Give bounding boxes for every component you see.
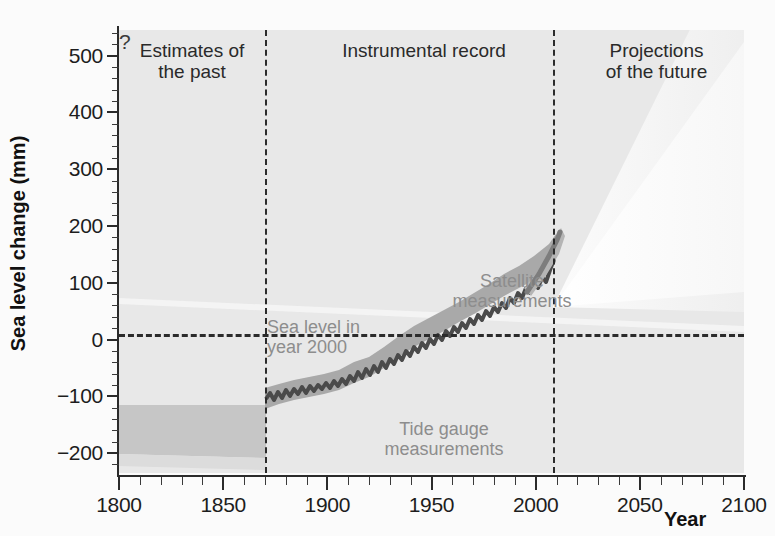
heading-past-line2: the past [127, 61, 257, 82]
y-minor-tick [112, 101, 119, 102]
x-minor-tick [515, 477, 516, 485]
x-major-tick [639, 477, 641, 490]
x-minor-tick [182, 477, 183, 485]
x-major-tick [326, 477, 328, 490]
y-minor-tick [112, 249, 119, 250]
y-minor-tick [112, 90, 119, 91]
x-minor-tick [557, 477, 558, 485]
tide-gauge-label-line2: measurements [349, 440, 539, 460]
x-major-tick [118, 477, 120, 490]
y-major-tick [107, 111, 119, 113]
x-minor-tick [702, 477, 703, 485]
heading-past-line1: Estimates of [127, 40, 257, 61]
y-tick-label: 300 [69, 157, 103, 181]
y-minor-tick [112, 203, 119, 204]
x-tick-label: 2000 [513, 493, 559, 517]
x-minor-tick [161, 477, 162, 485]
x-minor-tick [723, 477, 724, 485]
annotation-sea-level-year-2000: Sea level in year 2000 [267, 318, 360, 358]
x-minor-tick [369, 477, 370, 485]
y-minor-tick [112, 260, 119, 261]
y-tick-label: 100 [69, 271, 103, 295]
x-minor-tick [598, 477, 599, 485]
chart-graphics-layer [119, 30, 744, 473]
y-minor-tick [112, 237, 119, 238]
y-minor-tick [112, 78, 119, 79]
x-tick-label: 1850 [200, 493, 246, 517]
y-minor-tick [112, 158, 119, 159]
y-tick-label: 0 [92, 328, 103, 352]
annotation-tide-gauge-measurements: Tide gauge measurements [349, 420, 539, 460]
y-minor-tick [112, 181, 119, 182]
x-tick-label: 1900 [305, 493, 351, 517]
y-minor-tick [112, 362, 119, 363]
tide-gauge-label-line1: Tide gauge [349, 420, 539, 440]
y-major-tick [107, 395, 119, 397]
x-tick-label: 2050 [617, 493, 663, 517]
x-minor-tick [473, 477, 474, 485]
y-major-tick [107, 168, 119, 170]
x-minor-tick [452, 477, 453, 485]
x-minor-tick [202, 477, 203, 485]
x-minor-tick [619, 477, 620, 485]
past-estimate-band [119, 405, 266, 458]
heading-projections-line1: Projections [574, 40, 739, 61]
divider-1870-dashed-line [265, 30, 267, 473]
x-minor-tick [348, 477, 349, 485]
sea-level-label-line2: year 2000 [267, 338, 360, 358]
satellite-label-line1: Satellite [437, 272, 587, 292]
y-minor-tick [112, 374, 119, 375]
section-heading-instrumental-record: Instrumental record [279, 40, 569, 61]
annotation-satellite-measurements: Satellite measurements [437, 272, 587, 312]
x-major-tick [743, 477, 745, 490]
sea-level-change-chart: Sea level change (mm) [0, 0, 775, 536]
y-minor-tick [112, 442, 119, 443]
y-minor-tick [112, 305, 119, 306]
x-minor-tick [307, 477, 308, 485]
y-minor-tick [112, 67, 119, 68]
x-minor-tick [577, 477, 578, 485]
x-minor-tick [411, 477, 412, 485]
y-tick-label: 200 [69, 214, 103, 238]
y-major-tick [107, 55, 119, 57]
x-major-tick [535, 477, 537, 490]
y-minor-tick [112, 294, 119, 295]
x-axis-ticks: 1800185019001950200020502100 [0, 477, 775, 536]
x-minor-tick [244, 477, 245, 485]
y-tick-label: −100 [57, 384, 103, 408]
y-minor-tick [112, 215, 119, 216]
heading-instrumental-line1: Instrumental record [279, 40, 569, 61]
satellite-label-line2: measurements [437, 292, 587, 312]
y-major-tick [107, 339, 119, 341]
y-minor-tick [112, 271, 119, 272]
zero-reference-dashed-line [119, 334, 744, 337]
y-axis-ticks: 5004003002001000−100−200 [0, 0, 119, 536]
y-minor-tick [112, 328, 119, 329]
y-minor-tick [112, 385, 119, 386]
x-tick-label: 1950 [409, 493, 455, 517]
x-minor-tick [390, 477, 391, 485]
y-major-tick [107, 225, 119, 227]
x-minor-tick [661, 477, 662, 485]
x-minor-tick [286, 477, 287, 485]
y-minor-tick [112, 44, 119, 45]
y-minor-tick [112, 33, 119, 34]
divider-2007-dashed-line [553, 30, 555, 473]
x-tick-label: 2100 [721, 493, 767, 517]
x-major-tick [431, 477, 433, 490]
y-minor-tick [112, 146, 119, 147]
y-minor-tick [112, 408, 119, 409]
y-major-tick [107, 452, 119, 454]
y-minor-tick [112, 135, 119, 136]
y-minor-tick [112, 124, 119, 125]
y-minor-tick [112, 430, 119, 431]
section-heading-projections-of-the-future: Projections of the future [574, 40, 739, 83]
x-major-tick [222, 477, 224, 490]
y-minor-tick [112, 464, 119, 465]
y-minor-tick [112, 317, 119, 318]
x-minor-tick [682, 477, 683, 485]
x-tick-label: 1800 [96, 493, 142, 517]
x-minor-tick [494, 477, 495, 485]
y-minor-tick [112, 192, 119, 193]
plot-area: Estimates of the past Instrumental recor… [119, 30, 744, 473]
